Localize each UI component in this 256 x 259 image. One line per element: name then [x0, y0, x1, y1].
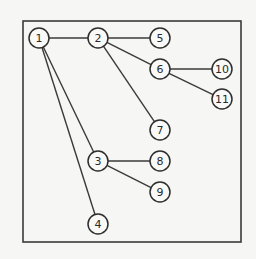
- node-3: 3: [88, 151, 108, 171]
- node-label: 4: [95, 218, 102, 231]
- edge-6-11: [169, 73, 213, 94]
- node-label: 7: [157, 124, 164, 137]
- node-8: 8: [150, 151, 170, 171]
- node-label: 10: [215, 63, 229, 76]
- node-layer: 1256101173894: [29, 28, 232, 234]
- node-label: 8: [157, 155, 164, 168]
- diagram-frame: [23, 21, 241, 242]
- node-label: 11: [215, 93, 229, 106]
- node-6: 6: [150, 59, 170, 79]
- edge-3-9: [107, 165, 151, 187]
- node-label: 5: [157, 32, 164, 45]
- node-label: 1: [36, 32, 43, 45]
- edge-2-7: [104, 46, 155, 121]
- node-1: 1: [29, 28, 49, 48]
- node-9: 9: [150, 182, 170, 202]
- node-4: 4: [88, 214, 108, 234]
- node-2: 2: [88, 28, 108, 48]
- node-label: 3: [95, 155, 102, 168]
- node-10: 10: [212, 59, 232, 79]
- tree-diagram: 1256101173894: [0, 0, 256, 259]
- node-label: 6: [157, 63, 164, 76]
- node-label: 2: [95, 32, 102, 45]
- edge-1-3: [43, 47, 93, 152]
- node-label: 9: [157, 186, 164, 199]
- node-11: 11: [212, 89, 232, 109]
- edge-layer: [42, 38, 213, 214]
- edge-1-4: [42, 48, 95, 215]
- node-7: 7: [150, 120, 170, 140]
- node-5: 5: [150, 28, 170, 48]
